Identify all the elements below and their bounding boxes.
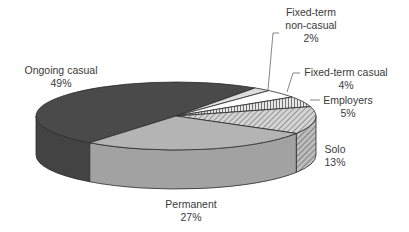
label-permanent: Permanent 27% — [156, 198, 226, 224]
label-ongoing-casual: Ongoing casual 49% — [16, 64, 106, 90]
label-fixed-term-noncasual: Fixed-term non-casual 2% — [278, 6, 344, 45]
label-fixed-term-casual: Fixed-term casual 4% — [298, 66, 394, 92]
label-employers: Employers 5% — [318, 94, 378, 120]
label-solo: Solo 13% — [320, 143, 350, 169]
